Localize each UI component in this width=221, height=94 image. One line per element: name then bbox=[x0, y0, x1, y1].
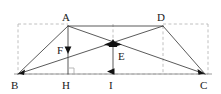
right-angle-at-H bbox=[68, 68, 74, 74]
geometry-figure: A D B C H I E F bbox=[0, 0, 221, 94]
vertex-label-B: B bbox=[11, 80, 18, 91]
segment-BD bbox=[18, 26, 163, 74]
solid-construction-lines bbox=[18, 26, 205, 74]
vertex-label-C: C bbox=[200, 80, 207, 91]
vertex-label-H: H bbox=[62, 80, 70, 91]
vertex-label-A: A bbox=[62, 12, 70, 23]
vertex-label-D: D bbox=[157, 12, 165, 23]
vertex-label-E: E bbox=[118, 51, 125, 62]
right-angle-marker-group bbox=[68, 68, 74, 74]
arrow-F-down bbox=[65, 47, 72, 55]
vertex-label-F: F bbox=[57, 45, 63, 56]
arrow-E-up-left bbox=[104, 41, 113, 47]
arrow-E-up-right bbox=[113, 41, 122, 47]
vertex-label-I: I bbox=[109, 80, 113, 91]
arrowheads bbox=[19, 39, 205, 75]
